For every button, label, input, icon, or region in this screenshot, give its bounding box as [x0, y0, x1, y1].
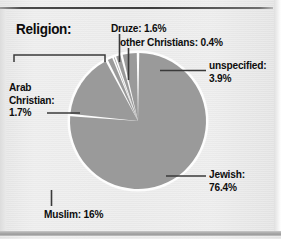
label-arab-christian-line1: Arab	[9, 81, 54, 94]
label-arab-christian: Arab Christian: 1.7%	[9, 81, 54, 119]
religion-pie-chart-figure: Jewish: 76.4%Muslim: 16%Arab Christian: …	[0, 0, 281, 239]
label-druze: Druze: 1.6%	[111, 22, 166, 35]
label-jewish: Jewish: 76.4%	[209, 168, 245, 193]
label-jewish-line1: Jewish:	[209, 168, 245, 181]
leader-line-arab-christian-top	[14, 55, 105, 62]
label-unspecified: unspecified: 3.9%	[209, 59, 266, 84]
chart-title: Religion:	[16, 21, 71, 37]
label-arab-christian-line3: 1.7%	[9, 106, 54, 119]
label-muslim: Muslim: 16%	[44, 208, 103, 221]
label-arab-christian-line2: Christian:	[9, 94, 54, 107]
label-other-christians: other Christians: 0.4%	[120, 36, 223, 49]
label-unspecified-line2: 3.9%	[209, 72, 266, 85]
label-jewish-line2: 76.4%	[209, 181, 245, 194]
label-unspecified-line1: unspecified:	[209, 59, 266, 72]
